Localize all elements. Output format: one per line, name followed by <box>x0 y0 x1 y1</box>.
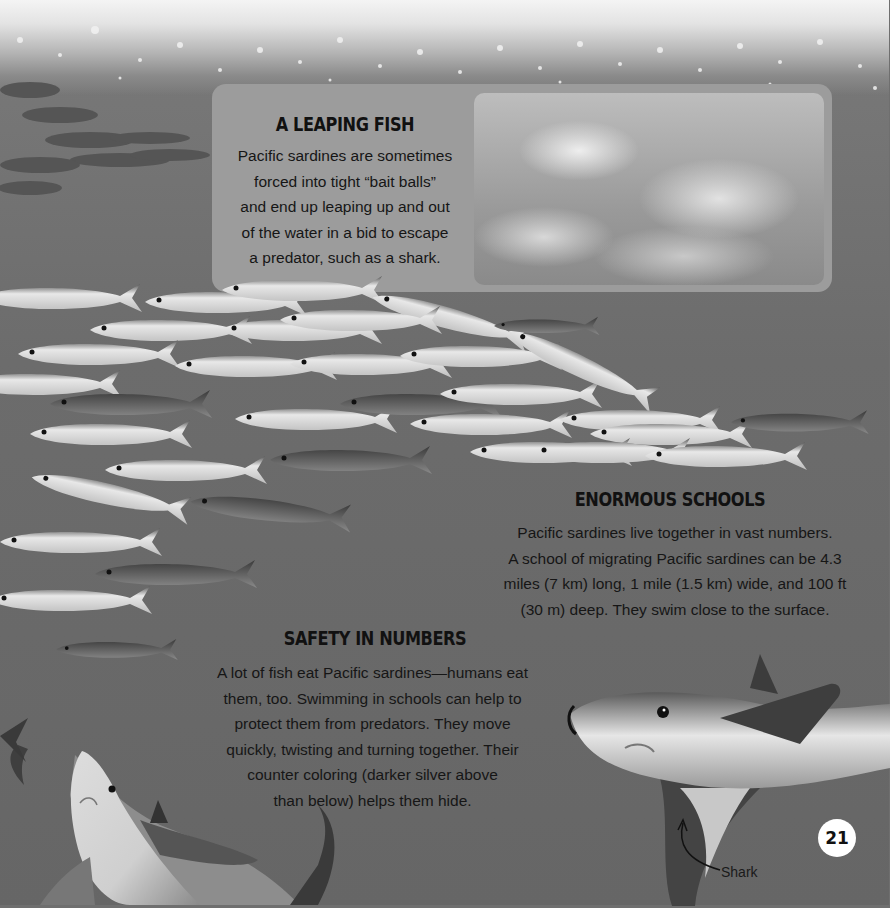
shark-label: Shark <box>721 864 758 880</box>
text-line: (30 m) deep. They swim close to the surf… <box>475 597 875 623</box>
text-line: protect them from predators. They move <box>205 711 540 737</box>
enormous-schools-heading: ENORMOUS SCHOOLS <box>543 488 798 510</box>
text-line: and end up leaping up and out <box>220 194 470 220</box>
leaping-sardines-photo <box>474 93 824 285</box>
text-line: of the water in a bid to escape <box>220 220 470 246</box>
fish-tail-fragment <box>0 716 40 766</box>
shark-illustration-left <box>0 745 350 905</box>
text-line: forced into tight “bait balls” <box>220 169 470 195</box>
text-line: miles (7 km) long, 1 mile (1.5 km) wide,… <box>475 571 875 597</box>
text-line: A school of migrating Pacific sardines c… <box>475 546 875 572</box>
distant-fish-school-illustration <box>0 60 220 200</box>
leaping-fish-text: Pacific sardines are sometimes forced in… <box>220 143 470 271</box>
page-number-badge: 21 <box>818 819 856 857</box>
safety-in-numbers-heading: SAFETY IN NUMBERS <box>243 627 507 649</box>
leaping-fish-heading: A LEAPING FISH <box>247 113 443 135</box>
text-line: Pacific sardines are sometimes <box>220 143 470 169</box>
text-line: a predator, such as a shark. <box>220 245 470 271</box>
text-line: Pacific sardines live together in vast n… <box>475 520 875 546</box>
text-line: them, too. Swimming in schools can help … <box>205 686 540 712</box>
enormous-schools-text: Pacific sardines live together in vast n… <box>475 520 875 622</box>
text-line: A lot of fish eat Pacific sardines—human… <box>205 660 540 686</box>
